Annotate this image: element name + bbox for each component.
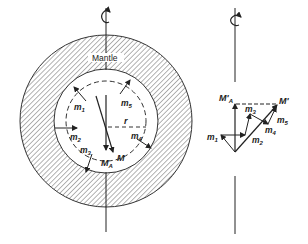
radius-label: r [124, 116, 128, 126]
m1-sum-label: m1 [207, 132, 219, 143]
m2-sum-label: m2 [252, 135, 264, 146]
m4-sum [250, 114, 268, 124]
axial-sum-label: M'A [219, 93, 233, 104]
vector-sum-diagram: M'A M' m1 m2 m3 m4 m5 [207, 8, 289, 234]
m5-sum [268, 107, 276, 124]
mantle-label: Mantle [92, 53, 118, 63]
m5-sum-label: m5 [277, 115, 289, 126]
m4-sum-label: m4 [265, 125, 277, 136]
resultant-moment-label: M [117, 153, 125, 163]
right-rotation-icon [231, 15, 241, 25]
dipole-moment-diagram: Mantle r MA M m1 m2 m3 m4 m5 M'A [0, 0, 308, 244]
earth-cross-section: Mantle r MA M m1 m2 m3 m4 m5 [20, 8, 192, 232]
m3-sum-label: m3 [245, 104, 257, 115]
resultant-sum-label: M' [279, 96, 289, 106]
m3-sum [245, 114, 250, 135]
m1-sum [221, 135, 235, 152]
